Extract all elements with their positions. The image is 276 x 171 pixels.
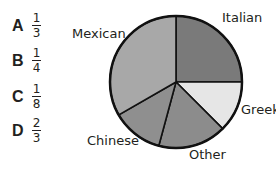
label-chinese: Chinese [87,133,139,148]
label-greek: Greek [241,102,276,117]
label-italian: Italian [222,10,262,25]
label-other: Other [189,147,226,162]
label-mexican: Mexican [72,26,126,41]
